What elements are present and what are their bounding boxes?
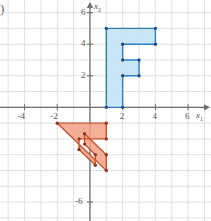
y-tick-label: -6: [75, 196, 83, 206]
transformed-F-vertex: [56, 121, 59, 124]
y-tick-label: 2: [81, 70, 86, 80]
x-tick-label: 4: [152, 111, 157, 121]
transformed-F-vertex: [77, 137, 80, 140]
transformed-F-vertex: [105, 153, 108, 156]
coordinate-plane: [0, 0, 211, 221]
transformed-F-vertex: [83, 132, 86, 135]
transformed-F-vertex: [94, 153, 97, 156]
x-tick-label: -4: [18, 111, 26, 121]
y-tick-label: 4: [81, 38, 86, 48]
x-tick-label: -2: [50, 111, 58, 121]
y-axis-arrow: [87, 2, 93, 8]
x-axis-label: x1: [196, 110, 203, 122]
y-axis-label: x2: [94, 1, 101, 13]
transformed-F-vertex: [105, 169, 108, 172]
original-F: [106, 28, 155, 107]
original-F-vertex: [121, 58, 124, 61]
transformed-F-vertex: [105, 137, 108, 140]
transformed-F-vertex: [94, 164, 97, 167]
original-F-vertex: [121, 106, 124, 109]
transformed-F-vertex: [77, 148, 80, 151]
x-axis-arrow: [204, 104, 210, 110]
y-tick-label: 6: [81, 7, 86, 17]
original-F-vertex: [137, 74, 140, 77]
original-F-vertex: [154, 27, 157, 30]
figure-container: ) x1 x2 -4-2246642-6: [0, 0, 211, 221]
transformed-F-vertex: [105, 121, 108, 124]
original-F-vertex: [121, 74, 124, 77]
original-F-vertex: [121, 43, 124, 46]
original-F-vertex: [137, 58, 140, 61]
original-F-vertex: [105, 27, 108, 30]
transformed-F-vertex: [83, 142, 86, 145]
original-F-vertex: [154, 43, 157, 46]
original-F-vertex: [105, 106, 108, 109]
x-tick-label: 6: [185, 111, 190, 121]
x-tick-label: 2: [120, 111, 125, 121]
transformed-F: [57, 123, 106, 170]
